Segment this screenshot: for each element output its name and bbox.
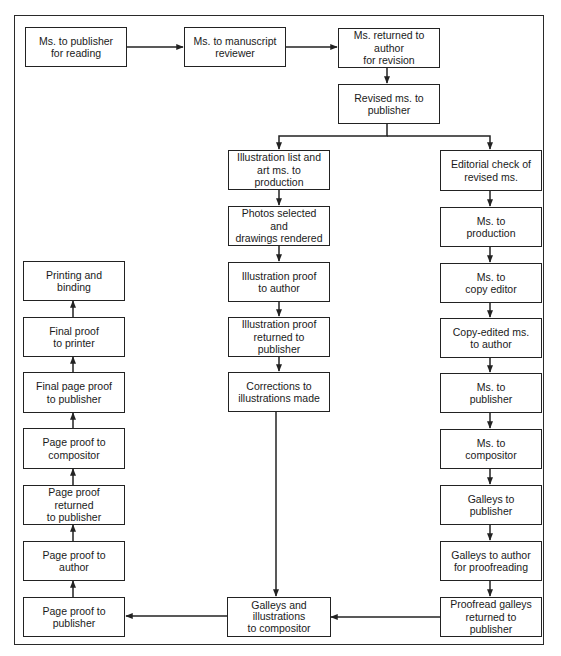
node-corrections: Corrections to illustrations made bbox=[228, 372, 330, 412]
node-ms-returned-to-author: Ms. returned to author for revision bbox=[338, 28, 440, 68]
node-illustration-proof-returned: Illustration proof returned to publisher bbox=[228, 317, 330, 357]
node-illustration-proof-author: Illustration proof to author bbox=[228, 262, 330, 302]
node-final-page-proof: Final page proof to publisher bbox=[23, 372, 125, 413]
node-revised-ms: Revised ms. to publisher bbox=[338, 84, 440, 124]
node-page-proof-author: Page proof to author bbox=[23, 541, 125, 581]
node-ms-to-publisher: Ms. to publisher for reading bbox=[25, 27, 127, 67]
node-printing: Printing and binding bbox=[23, 261, 125, 301]
node-ms-to-production: Ms. to production bbox=[440, 207, 542, 247]
node-galleys-illustrations-compositor: Galleys and illustrations to compositor bbox=[227, 597, 331, 637]
node-galleys-to-author: Galleys to author for proofreading bbox=[440, 541, 542, 581]
node-page-proof-compositor: Page proof to compositor bbox=[23, 428, 125, 469]
node-ms-to-reviewer: Ms. to manuscript reviewer bbox=[184, 27, 286, 67]
node-copy-edited: Copy-edited ms. to author bbox=[440, 318, 542, 358]
node-proofread-galleys: Proofread galleys returned to publisher bbox=[440, 597, 542, 637]
node-photos-selected: Photos selected and drawings rendered bbox=[228, 206, 330, 246]
node-ms-to-compositor: Ms. to compositor bbox=[440, 429, 542, 469]
node-ms-to-publisher-2: Ms. to publisher bbox=[440, 373, 542, 413]
node-editorial-check: Editorial check of revised ms. bbox=[440, 150, 542, 191]
node-page-proof-publisher: Page proof to publisher bbox=[23, 597, 125, 637]
node-galleys-to-publisher: Galleys to publisher bbox=[440, 485, 542, 525]
node-illustration-list: Illustration list and art ms. to product… bbox=[228, 150, 330, 190]
node-final-proof-printer: Final proof to printer bbox=[23, 317, 125, 357]
node-page-proof-returned: Page proof returned to publisher bbox=[23, 485, 125, 525]
node-ms-to-copy-editor: Ms. to copy editor bbox=[440, 263, 542, 303]
